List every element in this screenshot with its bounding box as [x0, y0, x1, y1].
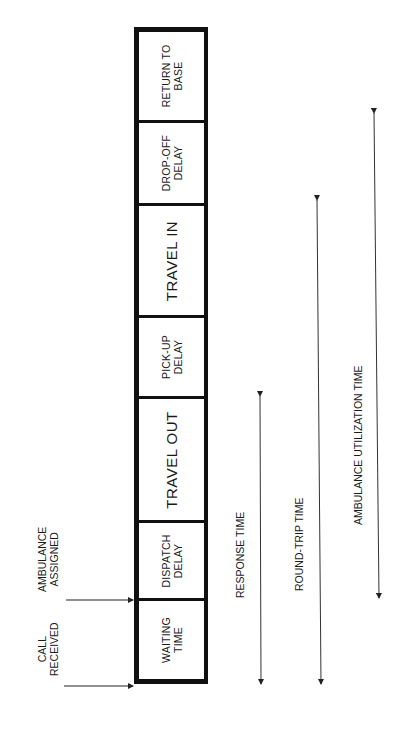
response-time-label: RESPONSE TIME	[234, 512, 246, 598]
round-trip-time-arrow	[317, 200, 321, 684]
response-time-arrow	[260, 396, 261, 684]
call-received-label: CALL RECEIVED	[36, 622, 60, 676]
utilization-time-label: AMBULANCE UTILIZATION TIME	[352, 366, 364, 525]
utilization-time-arrow	[374, 113, 379, 598]
ambulance-assigned-label: AMBULANCE ASSIGNED	[36, 527, 60, 592]
round-trip-time-label: ROUND-TRIP TIME	[293, 497, 305, 591]
arrows-layer	[0, 0, 405, 734]
